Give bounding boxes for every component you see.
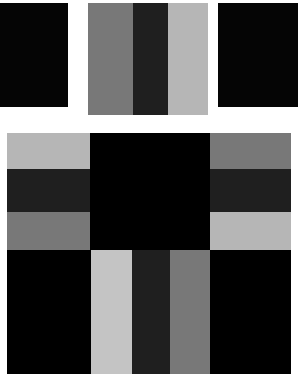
bottom-left-black-panel [7,250,91,374]
bottom-center-vertical-striped-panel [91,250,210,374]
top-right-black-panel [218,3,298,107]
bottom-right-black-panel [210,250,291,374]
top-center-striped-panel-band-dark-charcoal [133,3,168,115]
artboard [0,0,298,379]
mid-right-horizontal-striped-panel-band-light-gray [210,212,291,250]
mid-right-horizontal-striped-panel [210,133,291,250]
mid-right-horizontal-striped-panel-band-dark-charcoal [210,169,291,212]
top-center-striped-panel-band-medium-gray [88,3,133,115]
mid-left-horizontal-striped-panel [7,133,90,250]
bottom-center-vertical-striped-panel-band-dark-charcoal [132,250,170,374]
center-black-square [90,133,210,250]
top-center-striped-panel [88,3,208,115]
top-left-black-panel [0,3,68,107]
mid-left-horizontal-striped-panel-band-medium-gray [7,212,90,250]
mid-left-horizontal-striped-panel-band-dark-charcoal [7,169,90,212]
mid-right-horizontal-striped-panel-band-medium-gray [210,133,291,169]
bottom-center-vertical-striped-panel-band-light-gray [91,250,132,374]
top-center-striped-panel-band-light-gray [168,3,208,115]
mid-left-horizontal-striped-panel-band-light-gray [7,133,90,169]
bottom-center-vertical-striped-panel-band-medium-gray [170,250,210,374]
